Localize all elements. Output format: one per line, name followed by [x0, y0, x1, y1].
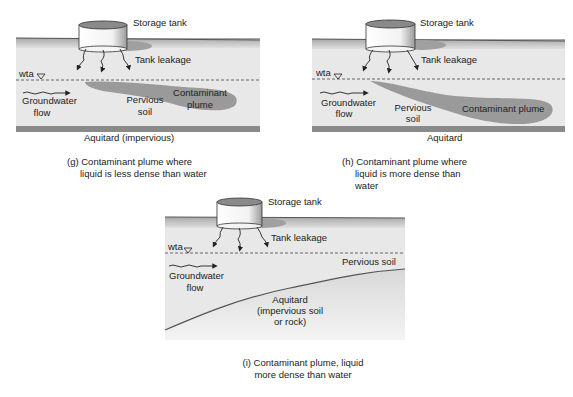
label-tank-leakage: Tank leakage — [421, 54, 477, 65]
label-soil: soil — [406, 113, 420, 124]
label-aquitard: Aquitard — [427, 132, 462, 143]
caption-i-line-1: (i) Contaminant plume, liquid — [228, 357, 378, 369]
label-wta: wta — [167, 241, 184, 252]
caption-i: (i) Contaminant plume, liquid more dense… — [228, 357, 378, 381]
label-flow: flow — [34, 107, 51, 118]
diagram-canvas: Storage tank Tank leakage wta Groundwate… — [0, 0, 573, 397]
label-tank-leakage: Tank leakage — [135, 54, 191, 65]
label-wta: wta — [315, 67, 332, 78]
label-plume: plume — [187, 99, 213, 110]
label-aquitard: Aquitard (impervious) — [84, 132, 174, 143]
label-pervious: Pervious — [395, 102, 432, 113]
label-flow: flow — [187, 282, 204, 293]
caption-h-line-2: liquid is more dense than — [342, 168, 467, 180]
storage-tank-icon — [366, 20, 415, 52]
label-storage-tank: Storage tank — [133, 17, 187, 28]
label-groundwater: Groundwater — [22, 95, 77, 106]
label-aquitard-desc-2: or rock) — [274, 316, 306, 327]
caption-g-line-1: (g) Contaminant plume where — [67, 156, 207, 168]
storage-tank-icon — [217, 198, 262, 229]
caption-h: (h) Contaminant plume where liquid is mo… — [342, 156, 467, 192]
label-groundwater: Groundwater — [169, 270, 224, 281]
panel-i: Storage tank Tank leakage wta Groundwate… — [165, 196, 405, 340]
label-storage-tank: Storage tank — [268, 196, 322, 207]
label-soil: soil — [138, 106, 152, 117]
label-wta: wta — [18, 68, 35, 79]
storage-tank-icon — [79, 21, 127, 52]
label-tank-leakage: Tank leakage — [271, 232, 327, 243]
label-contaminant: Contaminant — [173, 87, 227, 98]
label-groundwater: Groundwater — [321, 97, 376, 108]
caption-h-line-1: (h) Contaminant plume where — [342, 156, 467, 168]
label-flow: flow — [336, 108, 353, 119]
panel-h: Storage tank Tank leakage wta Groundwate… — [312, 17, 565, 143]
caption-g: (g) Contaminant plume where liquid is le… — [67, 156, 207, 180]
label-aquitard: Aquitard — [272, 294, 307, 305]
label-pervious: Pervious — [127, 94, 164, 105]
panel-g: Storage tank Tank leakage wta Groundwate… — [16, 17, 260, 143]
label-storage-tank: Storage tank — [420, 17, 474, 28]
label-aquitard-desc: (impervious soil — [257, 305, 323, 316]
caption-g-line-2: liquid is less dense than water — [67, 168, 207, 180]
label-pervious-soil: Pervious soil — [342, 256, 396, 267]
caption-i-line-2: more dense than water — [228, 369, 378, 381]
label-contaminant-plume: Contaminant plume — [462, 103, 544, 114]
caption-h-line-3: water — [342, 180, 467, 192]
